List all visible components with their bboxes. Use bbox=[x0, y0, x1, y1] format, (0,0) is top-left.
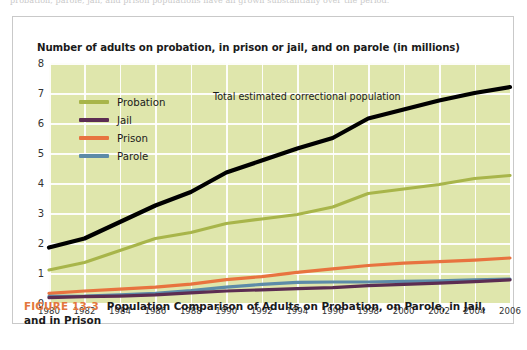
legend-swatch-probation bbox=[79, 100, 109, 105]
legend-item-probation[interactable]: Probation bbox=[79, 93, 165, 111]
legend-label-prison: Prison bbox=[117, 133, 148, 144]
legend-item-prison[interactable]: Prison bbox=[79, 129, 165, 147]
chart-title: Number of adults on probation, in prison… bbox=[37, 42, 460, 53]
y-axis-tick-label: 5 bbox=[38, 148, 44, 159]
legend-label-parole: Parole bbox=[117, 151, 148, 162]
legend-item-jail[interactable]: Jail bbox=[79, 111, 165, 129]
legend-label-jail: Jail bbox=[117, 115, 132, 126]
figure-box: Number of adults on probation, in prison… bbox=[12, 16, 514, 324]
legend-swatch-parole bbox=[79, 154, 109, 159]
y-axis-tick-label: 3 bbox=[38, 208, 44, 219]
y-axis-labels: 012345678 bbox=[13, 17, 49, 317]
series-annotation: Total estimated correctional population bbox=[213, 91, 401, 102]
legend-item-parole[interactable]: Parole bbox=[79, 147, 165, 165]
y-axis-tick-label: 1 bbox=[38, 268, 44, 279]
chart-legend: ProbationJailPrisonParole bbox=[79, 93, 165, 165]
y-axis-tick-label: 4 bbox=[38, 178, 44, 189]
y-axis-tick-label: 7 bbox=[38, 88, 44, 99]
figure-number: FIGURE 13-3 bbox=[24, 300, 99, 312]
y-axis-tick-label: 6 bbox=[38, 118, 44, 129]
y-axis-tick-label: 2 bbox=[38, 238, 44, 249]
y-axis-tick-label: 8 bbox=[38, 58, 44, 69]
figure-caption: FIGURE 13-3Population Comparison of Adul… bbox=[24, 300, 504, 327]
page-top-text: probation, parole, jail, and prison popu… bbox=[10, 0, 520, 10]
legend-swatch-jail bbox=[79, 118, 109, 123]
legend-swatch-prison bbox=[79, 136, 109, 141]
gridline-vertical bbox=[510, 63, 512, 303]
legend-label-probation: Probation bbox=[117, 97, 165, 108]
figure-root: probation, parole, jail, and prison popu… bbox=[0, 0, 527, 350]
